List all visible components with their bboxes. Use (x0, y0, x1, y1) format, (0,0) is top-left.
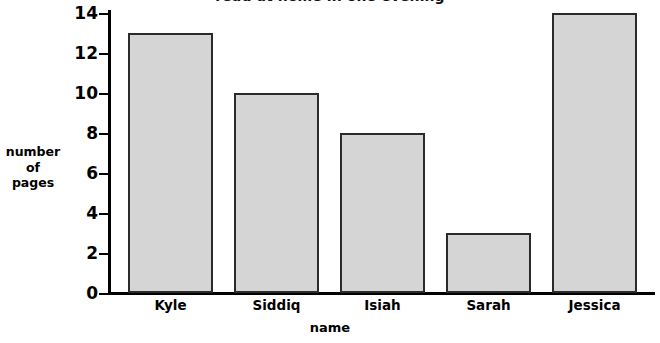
y-axis-tick (99, 213, 108, 215)
y-axis-tick-label: 8 (86, 125, 98, 142)
y-axis-tick-label: 4 (86, 205, 98, 222)
y-axis-tick-label: 12 (74, 45, 98, 62)
y-axis-tick-label: 2 (86, 245, 98, 262)
bar (128, 33, 213, 293)
y-axis-title-line-1: number (2, 144, 64, 160)
y-axis-line (108, 10, 111, 295)
y-axis-tick (99, 253, 108, 255)
y-axis-tick (99, 293, 108, 295)
x-axis-category-label: Jessica (552, 297, 637, 313)
y-axis-tick (99, 173, 108, 175)
x-axis-category-label: Isiah (340, 297, 425, 313)
y-axis-title: number of pages (2, 144, 64, 191)
y-axis-tick (99, 53, 108, 55)
bar (446, 233, 531, 293)
y-axis-tick (99, 13, 108, 15)
y-axis-tick-label: 6 (86, 165, 98, 182)
y-axis-tick (99, 133, 108, 135)
y-axis-tick-label: 10 (74, 85, 98, 102)
chart-title: read at home in one evening (0, 0, 660, 4)
plot-area (108, 10, 655, 295)
bar (552, 13, 637, 293)
y-axis-title-line-3: pages (2, 175, 64, 191)
x-axis-category-labels: KyleSiddiqIsiahSarahJessica (108, 297, 655, 319)
x-axis-category-label: Kyle (128, 297, 213, 313)
x-axis-category-label: Sarah (446, 297, 531, 313)
y-axis-tick (99, 93, 108, 95)
y-axis-tick-labels: 02468101214 (60, 0, 98, 343)
bar (234, 93, 319, 293)
y-axis-title-line-2: of (2, 160, 64, 176)
bar-chart: read at home in one evening number of pa… (0, 0, 660, 343)
bar (340, 133, 425, 293)
y-axis-tick-label: 14 (74, 5, 98, 22)
x-axis-category-label: Siddiq (234, 297, 319, 313)
x-axis-title: name (0, 320, 660, 335)
y-axis-tick-label: 0 (86, 285, 98, 302)
